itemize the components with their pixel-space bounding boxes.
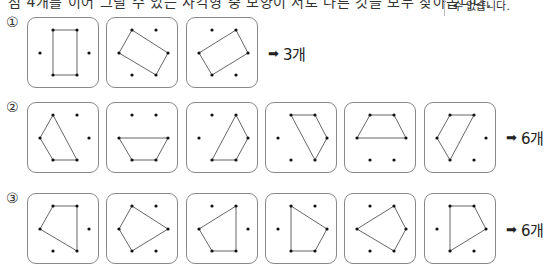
dot: [484, 136, 487, 139]
dot: [38, 227, 41, 230]
dot-grid-box: [424, 102, 496, 173]
quadrilateral-shape: [107, 103, 179, 174]
answer: ➡ 3개: [268, 43, 306, 64]
dot: [448, 113, 451, 116]
dot-grid-box: [27, 193, 99, 264]
dot: [472, 204, 475, 207]
dot: [155, 249, 158, 252]
dot: [369, 204, 372, 207]
quadrilateral-shape: [107, 18, 179, 89]
quadrilateral-shape: [187, 194, 259, 265]
dot: [313, 158, 316, 161]
dot: [435, 227, 438, 230]
dot: [155, 28, 158, 31]
dot: [289, 158, 292, 161]
dot: [289, 113, 292, 116]
dot: [234, 113, 237, 116]
quadrilateral-shape: [266, 194, 338, 265]
quadrilateral-shape: [187, 103, 259, 174]
side-note: 수 없습니다.: [444, 0, 510, 16]
answer-count: 3개: [283, 43, 307, 64]
dot: [75, 204, 78, 207]
dot: [369, 249, 372, 252]
dot: [405, 136, 408, 139]
quadrilateral-shape: [28, 18, 100, 89]
dot: [234, 73, 237, 76]
dot: [197, 136, 200, 139]
dot: [234, 204, 237, 207]
dot: [393, 113, 396, 116]
dot: [38, 136, 41, 139]
dot: [51, 73, 54, 76]
dot: [131, 113, 134, 116]
dot: [210, 28, 213, 31]
row-number: ①: [6, 14, 19, 30]
dot: [325, 136, 328, 139]
dot: [87, 136, 90, 139]
dot: [87, 227, 90, 230]
dot: [393, 249, 396, 252]
dot-grid-box: [106, 102, 178, 173]
dot: [118, 136, 121, 139]
dot: [155, 113, 158, 116]
dot: [51, 158, 54, 161]
quadrilateral-shape: [28, 103, 100, 174]
dot: [167, 51, 170, 54]
dot: [131, 73, 134, 76]
dot: [51, 249, 54, 252]
dot: [210, 204, 213, 207]
dot: [356, 136, 359, 139]
dot: [155, 158, 158, 161]
dot: [276, 227, 279, 230]
dot: [369, 158, 372, 161]
arrow-right-icon: ➡: [268, 46, 279, 61]
dot: [448, 204, 451, 207]
dot-grid-box: [27, 102, 99, 173]
dot: [313, 204, 316, 207]
dot: [51, 204, 54, 207]
dot: [393, 204, 396, 207]
dot: [197, 227, 200, 230]
dot: [472, 249, 475, 252]
dot: [75, 73, 78, 76]
dot: [197, 51, 200, 54]
row-number: ③: [6, 190, 19, 206]
dot: [246, 136, 249, 139]
dot: [484, 227, 487, 230]
dot: [75, 113, 78, 116]
answer-count: 6개: [521, 219, 545, 240]
dot-grid-box: [27, 17, 99, 88]
dot: [448, 249, 451, 252]
dot: [369, 113, 372, 116]
dot-grid-box: [106, 193, 178, 264]
dot-grid-box: [186, 193, 258, 264]
dot-grid-box: [424, 193, 496, 264]
dot: [276, 136, 279, 139]
answer-count: 6개: [521, 127, 545, 148]
dot: [435, 136, 438, 139]
dot-grid-box: [265, 102, 337, 173]
quadrilateral-shape: [266, 103, 338, 174]
quadrilateral-shape: [425, 103, 497, 174]
answer: ➡ 6개: [506, 127, 544, 148]
dot: [472, 113, 475, 116]
dot: [131, 204, 134, 207]
dot: [234, 28, 237, 31]
dot: [234, 249, 237, 252]
quadrilateral-shape: [345, 103, 417, 174]
dot: [234, 158, 237, 161]
dot: [75, 249, 78, 252]
quadrilateral-shape: [345, 194, 417, 265]
dot-grid-box: [265, 193, 337, 264]
dot-grid-box: [106, 17, 178, 88]
dot: [131, 28, 134, 31]
dot: [75, 28, 78, 31]
dot: [155, 204, 158, 207]
dot: [167, 227, 170, 230]
dot: [393, 158, 396, 161]
dot-grid-box: [186, 102, 258, 173]
dot: [38, 51, 41, 54]
dot: [210, 73, 213, 76]
row-number: ②: [6, 99, 19, 115]
dot: [87, 51, 90, 54]
